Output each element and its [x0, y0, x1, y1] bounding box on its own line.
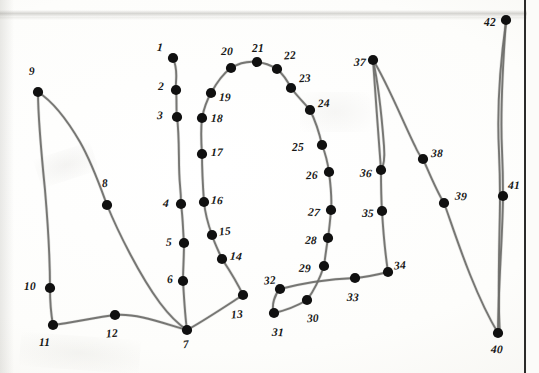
pencil-stroke-group	[38, 20, 506, 334]
dot-marker-14[interactable]	[217, 254, 227, 264]
drawing-layer	[0, 0, 539, 373]
dot-marker-37[interactable]	[368, 55, 378, 65]
dot-marker-38[interactable]	[418, 154, 428, 164]
dot-marker-1[interactable]	[168, 53, 178, 63]
dot-number-16: 16	[211, 195, 224, 207]
dot-marker-7[interactable]	[182, 325, 192, 335]
diagonal-9-to-8-to-7	[38, 92, 187, 330]
dot-marker-8[interactable]	[102, 200, 112, 210]
dot-number-33: 33	[347, 292, 359, 304]
dot-marker-9[interactable]	[33, 87, 43, 97]
dot-marker-36[interactable]	[376, 165, 386, 175]
dot-number-4: 4	[163, 198, 170, 210]
dot-marker-35[interactable]	[377, 206, 387, 216]
dot-marker-16[interactable]	[199, 197, 209, 207]
dot-number-17: 17	[211, 147, 223, 159]
dot-marker-21[interactable]	[252, 57, 262, 67]
dot-marker-10[interactable]	[45, 283, 55, 293]
dot-marker-19[interactable]	[206, 88, 216, 98]
dot-number-8: 8	[102, 178, 109, 190]
dot-marker-33[interactable]	[350, 273, 360, 283]
right-margin-rule	[524, 0, 526, 373]
dot-number-31: 31	[272, 327, 284, 339]
dot-number-26: 26	[306, 170, 318, 182]
dot-marker-17[interactable]	[197, 149, 207, 159]
connect-the-dots-page: 1234567891011121314151617181920212223242…	[0, 0, 539, 373]
dot-marker-2[interactable]	[171, 85, 181, 95]
dot-marker-31[interactable]	[269, 308, 279, 318]
dot-marker-42[interactable]	[501, 15, 511, 25]
dot-marker-39[interactable]	[439, 198, 449, 208]
dot-number-2: 2	[158, 81, 164, 93]
dot-number-21: 21	[252, 43, 264, 55]
dot-marker-5[interactable]	[179, 238, 189, 248]
dot-marker-11[interactable]	[48, 320, 58, 330]
dot-number-11: 11	[39, 337, 50, 349]
dot-number-18: 18	[211, 113, 223, 125]
crossbar-32-33-34-halo	[280, 272, 388, 289]
dot-number-34: 34	[394, 260, 407, 272]
long-sweep-37-38-39-40-halo	[373, 60, 498, 333]
dot-number-25: 25	[292, 142, 304, 154]
dot-number-9: 9	[29, 66, 35, 78]
dot-number-27: 27	[308, 207, 321, 219]
dot-number-30: 30	[307, 313, 319, 325]
dot-marker-15[interactable]	[207, 230, 217, 240]
dot-number-35: 35	[362, 208, 374, 220]
dot-marker-34[interactable]	[383, 267, 393, 277]
dot-marker-6[interactable]	[178, 276, 188, 286]
dot-number-41: 41	[508, 180, 520, 192]
dot-number-40: 40	[491, 344, 503, 356]
dot-marker-4[interactable]	[176, 199, 186, 209]
right-margin-area	[527, 0, 539, 373]
dot-marker-40[interactable]	[493, 328, 503, 338]
dot-number-7: 7	[183, 339, 190, 351]
dot-number-38: 38	[431, 148, 443, 160]
dot-number-37: 37	[354, 57, 366, 69]
long-sweep-37-38-39-40	[373, 60, 498, 333]
dot-marker-27[interactable]	[326, 205, 336, 215]
dot-number-23: 23	[299, 73, 311, 85]
dot-marker-23[interactable]	[286, 83, 296, 93]
diagonal-9-to-8-to-7-halo	[38, 92, 187, 330]
dot-number-39: 39	[455, 191, 468, 203]
dot-marker-41[interactable]	[498, 191, 508, 201]
dot-number-15: 15	[219, 226, 232, 238]
dot-marker-28[interactable]	[323, 233, 333, 243]
dot-number-22: 22	[284, 50, 297, 62]
dot-number-32: 32	[264, 275, 277, 287]
dot-marker-24[interactable]	[305, 105, 315, 115]
dot-marker-26[interactable]	[324, 167, 334, 177]
dot-number-3: 3	[157, 110, 163, 122]
dot-number-28: 28	[305, 235, 317, 247]
dot-marker-29[interactable]	[319, 261, 329, 271]
dot-number-14: 14	[230, 251, 243, 263]
dot-marker-18[interactable]	[197, 113, 207, 123]
dot-marker-3[interactable]	[172, 112, 182, 122]
arch-left-17-18-19-20-21-halo	[201, 62, 257, 154]
dot-number-20: 20	[221, 46, 233, 58]
dot-number-29: 29	[299, 263, 311, 275]
dot-marker-25[interactable]	[317, 140, 327, 150]
dot-number-12: 12	[106, 328, 119, 340]
dot-number-1: 1	[157, 42, 164, 54]
dot-number-36: 36	[360, 168, 373, 180]
dot-number-13: 13	[231, 309, 244, 321]
dot-marker-30[interactable]	[302, 295, 312, 305]
dot-marker-13[interactable]	[238, 290, 248, 300]
arch-left-17-18-19-20-21	[201, 62, 257, 154]
dot-number-24: 24	[318, 98, 330, 110]
dot-marker-20[interactable]	[226, 63, 236, 73]
dot-number-42: 42	[484, 17, 496, 29]
dot-number-6: 6	[167, 274, 174, 286]
dot-number-10: 10	[24, 281, 36, 293]
dot-number-5: 5	[166, 237, 172, 249]
dot-number-19: 19	[219, 92, 231, 104]
dot-marker-22[interactable]	[272, 64, 282, 74]
dot-marker-12[interactable]	[110, 310, 120, 320]
